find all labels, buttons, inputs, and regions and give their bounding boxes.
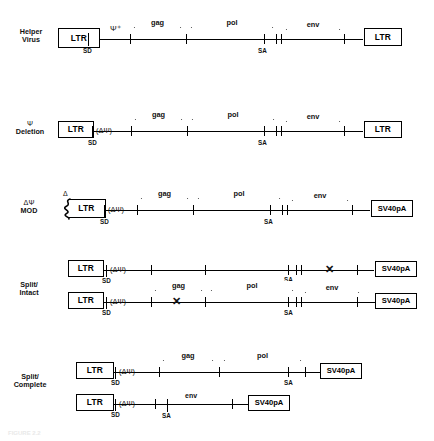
gene-arrow-pol-r5a: pol	[220, 353, 305, 362]
ltr-box-left-r5a[interactable]: LTR	[76, 362, 114, 379]
sd-tick-r2	[92, 126, 93, 138]
gene-arrow-gag-r5a: gag	[159, 353, 217, 362]
backbone-tick-r3-3	[282, 205, 283, 215]
ltr-box-label: LTR	[78, 204, 94, 212]
sd-tick-r3	[104, 205, 105, 217]
sa-label-r3: SA	[264, 219, 273, 225]
backbone-tick-r1-2	[186, 34, 187, 44]
sd-label-r3: SD	[100, 219, 109, 225]
sa-label-r2: SA	[258, 140, 267, 146]
backbone-tick-r3-4	[287, 205, 288, 215]
sa-tick-r5a	[288, 367, 289, 377]
sa-label-r1: SA	[258, 48, 267, 54]
sd-label-r4b: SD	[102, 310, 111, 316]
gene-label-pol: pol	[232, 189, 246, 198]
sv40pa-box-r5b[interactable]: SV40pA	[248, 395, 290, 411]
backbone-tick-r4b-2	[205, 297, 206, 307]
backbone-tick-r1-1	[130, 34, 131, 44]
gene-arrow-gag-r4: gag	[151, 283, 206, 292]
row-label-line2: Complete	[2, 381, 58, 389]
backbone-tick-r2-2	[187, 126, 188, 136]
ltr-box-label: LTR	[375, 125, 391, 133]
gene-arrow-gag-r2: gag	[131, 112, 186, 121]
backbone-tick-r3-1	[137, 205, 138, 215]
sv40pa-box-label: SV40pA	[378, 205, 407, 213]
backbone-tick-r2-4	[281, 126, 282, 136]
ltr-box-label: LTR	[68, 125, 84, 133]
gene-label-gag: gag	[156, 189, 172, 198]
gene-arrow-env-r4: env	[301, 285, 363, 294]
backbone-tick-r4a-5	[357, 265, 358, 275]
row-label-psi-deletion: Ψ Deletion	[4, 120, 56, 137]
sd-tick-r4a	[106, 265, 107, 277]
backbone-tick-r5b-1	[155, 399, 156, 409]
gene-arrow-gag-r3: gag	[137, 191, 192, 200]
ltr-box-label: LTR	[78, 296, 94, 304]
delta-label-r3: Δ	[63, 190, 68, 197]
backbone-line-r3	[104, 210, 370, 211]
gene-label-env: env	[305, 112, 321, 121]
sd-label-r2: SD	[88, 140, 97, 146]
gene-label-pol: pol	[225, 18, 239, 27]
ltr-box-right-r1[interactable]: LTR	[364, 28, 402, 46]
gene-label-pol: pol	[245, 281, 259, 290]
backbone-tick-r3-5	[352, 205, 353, 215]
sv40pa-box-label: SV40pA	[382, 265, 411, 273]
sa-tick-r4a	[288, 265, 289, 275]
backbone-tick-r1-5	[344, 34, 345, 44]
backbone-tick-r2-1	[131, 126, 132, 136]
ltr-box-left-r2[interactable]: LTR	[58, 121, 94, 138]
row-label-line2: MOD	[8, 207, 50, 215]
backbone-tick-r1-4	[281, 34, 282, 44]
gene-label-gag: gag	[180, 351, 196, 360]
gene-label-gag: gag	[170, 281, 186, 290]
ltr-box-left-r5b[interactable]: LTR	[76, 394, 114, 411]
backbone-tick-r4a-4	[301, 265, 302, 275]
row-label-split-intact: Split/ Intact	[6, 281, 52, 298]
gene-arrow-pol-r2: pol	[188, 112, 278, 121]
sd-label-r5a: SD	[111, 380, 120, 386]
delta-psi-label-r5a: (ΔΨ)	[119, 368, 135, 375]
backbone-tick-r4a-3	[296, 265, 297, 275]
sv40pa-box-r3[interactable]: SV40pA	[371, 200, 413, 217]
delta-psi-label-r2: (ΔΨ)	[96, 127, 112, 134]
gene-arrow-pol-r1: pol	[187, 20, 277, 29]
backbone-tick-r5a-1	[159, 367, 160, 377]
backbone-tick-r5b-2	[232, 399, 233, 409]
figure-caption: FIGURE 2.2	[8, 430, 41, 436]
sa-label-r5a: SA	[284, 380, 293, 386]
backbone-tick-r4b-4	[301, 297, 302, 307]
sa-tick-r3	[270, 205, 271, 215]
sv40pa-box-r4a[interactable]: SV40pA	[375, 261, 417, 277]
ltr-box-left-r4b[interactable]: LTR	[68, 292, 104, 309]
sa-tick-r2	[264, 126, 265, 136]
sd-label-r4a: SD	[102, 278, 111, 284]
ltr-box-right-r2[interactable]: LTR	[364, 121, 402, 138]
backbone-tick-r3-2	[193, 205, 194, 215]
gene-label-gag: gag	[149, 18, 165, 27]
gene-label-env: env	[305, 20, 321, 29]
ltr-box-label: LTR	[71, 34, 87, 42]
gene-label-pol: pol	[226, 110, 240, 119]
sa-tick-r4b	[288, 297, 289, 307]
delta-ltr-wavy-edge-icon	[62, 197, 74, 221]
sv40pa-box-r4b[interactable]: SV40pA	[375, 293, 417, 309]
ltr-box-left-r4a[interactable]: LTR	[68, 260, 104, 277]
ltr-box-left-r1[interactable]: LTR	[58, 28, 100, 48]
sd-label-r5b: SD	[111, 412, 120, 418]
cross-mark-r4a: ✕	[325, 264, 334, 275]
backbone-tick-r5a-2	[219, 367, 220, 377]
ltr-box-label: LTR	[78, 264, 94, 272]
backbone-tick-r5a-3	[305, 367, 306, 377]
ltr-box-label: LTR	[87, 366, 103, 374]
sd-tick-r4b	[106, 297, 107, 309]
row-label-helper-virus: Helper Virus	[8, 28, 54, 45]
row-label-line2: Deletion	[4, 128, 56, 136]
sa-tick-r1	[264, 34, 265, 44]
sd-tick-r1	[88, 33, 89, 46]
gene-arrow-env-r2: env	[282, 114, 344, 123]
sd-tick-r5b	[115, 399, 116, 411]
sv40pa-box-r5a[interactable]: SV40pA	[320, 363, 362, 379]
backbone-tick-r4b-1	[151, 297, 152, 307]
delta-psi-label-r3: (ΔΨ)	[108, 206, 124, 213]
